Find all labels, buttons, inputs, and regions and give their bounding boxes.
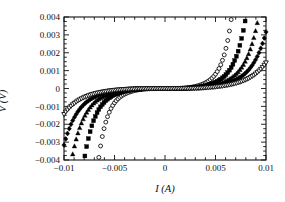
svg-text:0: 0 — [56, 84, 61, 94]
svg-text:0: 0 — [163, 163, 168, 173]
chart-canvas: −0.01−0.00500.0050.01 −0.004−0.003−0.002… — [0, 0, 285, 202]
y-tick-labels: −0.004−0.003−0.002−0.00100.0010.0020.003… — [35, 12, 61, 165]
svg-text:0.004: 0.004 — [40, 12, 61, 22]
svg-text:−0.004: −0.004 — [35, 155, 61, 165]
svg-text:0.01: 0.01 — [258, 163, 274, 173]
svg-text:0.001: 0.001 — [40, 66, 60, 76]
series-open-triangle-down — [62, 61, 269, 117]
svg-text:−0.003: −0.003 — [35, 137, 61, 147]
x-tick-labels: −0.01−0.00500.0050.01 — [54, 163, 274, 173]
svg-text:0.003: 0.003 — [40, 30, 61, 40]
data-series-group — [62, 18, 269, 160]
svg-text:−0.001: −0.001 — [35, 102, 60, 112]
svg-text:−0.005: −0.005 — [102, 163, 128, 173]
svg-text:0.002: 0.002 — [40, 48, 60, 58]
y-axis-title: V (V) — [0, 90, 8, 112]
x-axis-title: I (A) — [155, 183, 175, 194]
figure-container: −0.01−0.00500.0050.01 −0.004−0.003−0.002… — [0, 0, 285, 202]
svg-text:−0.002: −0.002 — [35, 119, 60, 129]
svg-text:0.005: 0.005 — [205, 163, 226, 173]
